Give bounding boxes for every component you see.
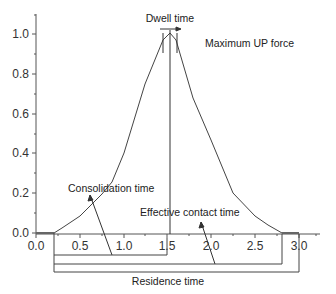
y-tick-label: 1.0 xyxy=(12,27,29,41)
y-tick-labels: 0.0 0.2 0.4 0.6 0.8 1.0 xyxy=(12,27,29,240)
chart-figure: 0.0 0.2 0.4 0.6 0.8 1.0 0.0 0.5 1.0 1.5 … xyxy=(0,0,336,294)
y-tick-label: 0.2 xyxy=(12,186,29,200)
force-curve xyxy=(54,33,282,233)
x-tick-label: 1.0 xyxy=(116,239,133,253)
x-tick-label: 2.5 xyxy=(247,239,264,253)
max-up-force-label: Maximum UP force xyxy=(205,37,294,49)
y-tick-label: 0.4 xyxy=(12,146,29,160)
effective-contact-time-label: Effective contact time xyxy=(140,206,240,218)
x-axis xyxy=(36,234,320,238)
residence-time-label: Residence time xyxy=(132,275,205,287)
y-tick-label: 0.6 xyxy=(12,107,29,121)
y-tick-label: 0.8 xyxy=(12,67,29,81)
x-tick-label: 0.5 xyxy=(72,239,89,253)
y-axis xyxy=(32,14,36,234)
x-tick-labels: 0.0 0.5 1.0 1.5 2.0 2.5 3.0 xyxy=(28,239,308,253)
y-tick-label: 0.0 xyxy=(12,226,29,240)
x-tick-label: 0.0 xyxy=(28,239,45,253)
dwell-time-label: Dwell time xyxy=(146,12,195,24)
consolidation-time-label: Consolidation time xyxy=(68,182,155,194)
dwell-time-markers xyxy=(160,27,181,234)
